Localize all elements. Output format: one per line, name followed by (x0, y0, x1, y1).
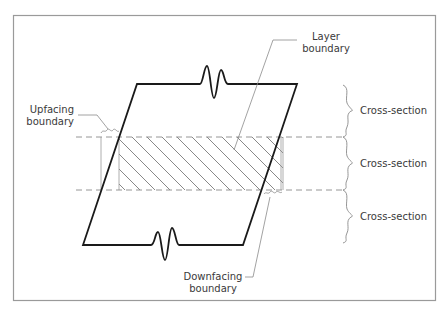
downfacing-boundary-label: Downfacing boundary (182, 271, 244, 295)
part-outline (83, 66, 297, 260)
layer-boundary-label: Layer boundary (300, 31, 352, 55)
label-line: Downfacing (182, 271, 244, 283)
cross-section-label-bottom: Cross-section (360, 211, 427, 223)
label-line: boundary (182, 283, 244, 295)
upfacing-boundary-label: Upfacing boundary (22, 104, 74, 128)
downfacing-squiggle (264, 191, 282, 194)
label-line: Layer (300, 31, 352, 43)
label-line: boundary (22, 116, 74, 128)
upfacing-leader (78, 115, 108, 129)
downfacing-leader (245, 197, 270, 277)
layer-boundary-leader (234, 40, 297, 150)
label-line: boundary (300, 43, 352, 55)
cross-section-braces (343, 85, 352, 243)
upfacing-squiggle (101, 129, 119, 133)
label-line: Upfacing (22, 104, 74, 116)
cross-section-label-top: Cross-section (360, 105, 427, 117)
cross-section-label-middle: Cross-section (360, 158, 427, 170)
